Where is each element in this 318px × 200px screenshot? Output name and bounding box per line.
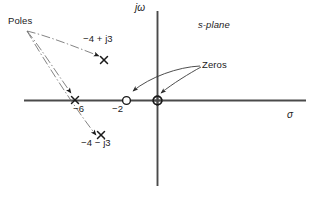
- zeros-leader-lines: [133, 66, 201, 93]
- pole-real-value-label: −6: [73, 104, 84, 114]
- pole-upper-value-label: −4 + j3: [83, 34, 113, 44]
- poles-leader-lines: [27, 31, 99, 135]
- zero-marker-minus-two: [123, 97, 131, 105]
- zeros-leader-to-zero-origin: [161, 67, 201, 93]
- zero-minus-two-value-label: −2: [112, 104, 123, 114]
- axes-group: [24, 11, 306, 186]
- poles-annotation-label: Poles: [8, 16, 32, 26]
- pole-zero-plot-figure: Poles Zeros s-plane jω σ −4 + j3 −6 −4 −…: [0, 0, 318, 200]
- real-axis-label: σ: [287, 110, 293, 120]
- zeros-leader-to-zero-minus-two: [133, 66, 200, 91]
- zeros-annotation-label: Zeros: [202, 60, 227, 70]
- imaginary-axis-label: jω: [135, 3, 145, 13]
- plot-canvas: [0, 0, 318, 200]
- poles-leader-to-real-pole: [27, 31, 71, 93]
- poles-leader-to-lower-pole: [27, 31, 96, 135]
- pole-marker-upper: [101, 57, 108, 64]
- s-plane-title-label: s-plane: [198, 20, 230, 30]
- pole-lower-value-label: −4 − j3: [81, 138, 111, 148]
